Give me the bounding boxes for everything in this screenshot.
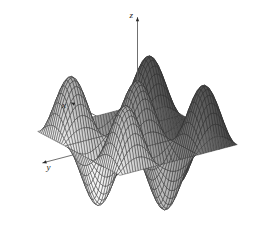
- x-axis-label: x: [61, 100, 66, 110]
- surface-plot-figure: x y z: [0, 0, 275, 227]
- y-axis-label: y: [45, 162, 50, 172]
- surface-plot-canvas: x y z: [0, 0, 275, 227]
- z-axis-label: z: [129, 10, 134, 20]
